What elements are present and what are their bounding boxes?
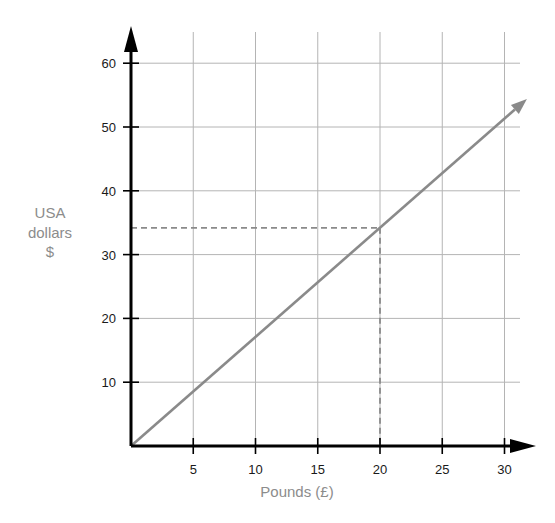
x-tick-label: 5 bbox=[190, 462, 197, 477]
axes bbox=[124, 26, 536, 453]
conversion-graph: 51015202530 102030405060 Pounds (£) USA … bbox=[0, 0, 555, 523]
x-axis-arrow-icon bbox=[510, 439, 536, 453]
y-tick-label: 10 bbox=[102, 375, 116, 390]
grid-lines bbox=[131, 32, 520, 446]
x-tick-label: 15 bbox=[311, 462, 325, 477]
y-axis-arrow-icon bbox=[124, 26, 138, 52]
y-tick-label: 60 bbox=[102, 56, 116, 71]
y-tick-label: 40 bbox=[102, 184, 116, 199]
x-tick-label: 20 bbox=[373, 462, 387, 477]
conversion-line bbox=[131, 99, 527, 446]
x-axis-ticks: 51015202530 bbox=[190, 438, 512, 477]
y-axis-title-line-3: $ bbox=[46, 243, 55, 260]
y-tick-label: 30 bbox=[102, 248, 116, 263]
x-tick-label: 30 bbox=[497, 462, 511, 477]
x-tick-label: 10 bbox=[248, 462, 262, 477]
y-axis-title-line-2: dollars bbox=[28, 224, 72, 241]
y-axis-ticks: 102030405060 bbox=[102, 56, 139, 390]
conversion-line-segment bbox=[131, 109, 515, 446]
y-tick-label: 20 bbox=[102, 311, 116, 326]
x-tick-label: 25 bbox=[435, 462, 449, 477]
x-axis-title: Pounds (£) bbox=[260, 483, 333, 500]
y-tick-label: 50 bbox=[102, 120, 116, 135]
y-axis-title-line-1: USA bbox=[35, 204, 66, 221]
